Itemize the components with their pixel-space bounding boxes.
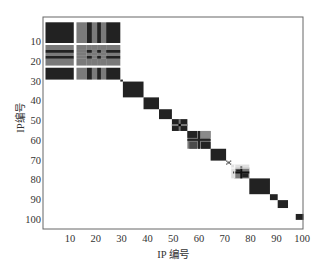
banded-block-cell (45, 59, 73, 66)
x-tick-label: 70 (220, 233, 231, 244)
banded-block-cell (92, 43, 97, 45)
banded-block-cell (76, 68, 86, 80)
x-tick-label: 20 (91, 233, 102, 244)
banded-block-cell (74, 59, 77, 66)
banded-block-cell (45, 43, 73, 45)
cluster-sub (187, 131, 197, 138)
banded-block-cell (101, 22, 106, 43)
banded-block-cell (87, 43, 92, 45)
banded-block-cell (45, 66, 73, 68)
banded-block-cell (97, 56, 101, 59)
banded-block-cell (76, 22, 86, 43)
cluster-sub (189, 142, 197, 149)
y-tick-label: 90 (31, 194, 42, 205)
banded-block-cell (76, 43, 86, 45)
banded-block-cell (87, 45, 92, 50)
y-tick-label: 50 (31, 115, 42, 126)
y-tick-label: 60 (31, 135, 42, 146)
cluster-sub (242, 173, 248, 177)
banded-block-cell (92, 56, 97, 59)
cluster-cell (230, 161, 231, 162)
banded-block-cell (45, 22, 73, 43)
banded-block-cell (106, 56, 120, 59)
y-tick-label: 30 (31, 76, 42, 87)
x-tick-label: 40 (142, 233, 153, 244)
cluster-band (187, 139, 210, 141)
banded-block-cell (92, 59, 97, 66)
cluster-cell (227, 163, 228, 164)
heatmap-cells (45, 22, 303, 220)
x-tick-label: 10 (65, 233, 76, 244)
x-tick-label: 80 (245, 233, 256, 244)
banded-block-cell (45, 56, 73, 59)
banded-block-cell (87, 59, 92, 66)
banded-block-cell (97, 66, 101, 68)
banded-block-cell (74, 43, 77, 45)
similarity-heatmap-chart: 102030405060708090100 102030405060708090… (0, 0, 327, 269)
banded-block-cell (97, 68, 101, 80)
banded-block-cell (76, 50, 86, 53)
cluster-gap (234, 165, 235, 179)
banded-block-cell (101, 43, 106, 45)
cluster-block (120, 80, 123, 82)
cluster-sub (201, 131, 211, 138)
cluster-band (233, 171, 249, 173)
banded-block-cell (97, 59, 101, 66)
banded-block-cell (97, 43, 101, 45)
cluster-block (144, 97, 159, 109)
cluster-block (211, 149, 226, 161)
banded-block-cell (87, 53, 92, 56)
x-tick-label: 60 (194, 233, 205, 244)
cluster-cell (226, 161, 227, 162)
banded-block-cell (106, 68, 120, 80)
banded-block-cell (101, 53, 106, 56)
banded-block-cell (106, 66, 120, 68)
y-tick-label: 40 (31, 95, 42, 106)
banded-block-cell (92, 66, 97, 68)
x-tick-label: 90 (271, 233, 282, 244)
cluster-center (178, 124, 180, 126)
banded-block-cell (76, 45, 86, 50)
x-tick-label: 30 (116, 233, 127, 244)
cluster-cell (229, 162, 230, 163)
banded-block-cell (97, 53, 101, 56)
cluster-block (159, 109, 172, 119)
banded-block-cell (45, 53, 73, 56)
banded-block-cell (74, 68, 77, 80)
cluster-block (249, 178, 270, 194)
banded-block-cell (101, 59, 106, 66)
banded-block-cell (106, 22, 120, 43)
banded-block-cell (106, 53, 120, 56)
banded-block-cell (87, 66, 92, 68)
banded-block-cell (92, 22, 97, 43)
cluster-cell (226, 164, 227, 165)
y-tick-label: 10 (31, 36, 42, 47)
cluster-block (123, 82, 144, 98)
banded-block-cell (74, 53, 77, 56)
banded-block-cell (74, 45, 77, 50)
banded-block-cell (101, 56, 106, 59)
banded-block-cell (92, 53, 97, 56)
x-axis-title: IP 编号 (157, 248, 189, 260)
cluster-block (278, 200, 288, 208)
banded-block-cell (74, 22, 77, 43)
banded-block-cell (87, 68, 92, 80)
cluster-cell (227, 162, 228, 163)
banded-block-cell (74, 66, 77, 68)
banded-block-cell (74, 56, 77, 59)
banded-block-cell (45, 50, 73, 53)
x-tick-label: 50 (168, 233, 179, 244)
y-tick-label: 70 (31, 155, 42, 166)
banded-block-cell (87, 56, 92, 59)
cluster-block (270, 194, 278, 200)
banded-block-cell (101, 66, 106, 68)
banded-block-cell (92, 45, 97, 50)
cluster-gap (231, 168, 249, 169)
banded-block-cell (92, 50, 97, 53)
banded-block-cell (97, 50, 101, 53)
banded-block-cell (106, 50, 120, 53)
banded-block-cell (92, 68, 97, 80)
banded-block-cell (76, 66, 86, 68)
banded-block-cell (97, 45, 101, 50)
banded-block-cell (101, 45, 106, 50)
